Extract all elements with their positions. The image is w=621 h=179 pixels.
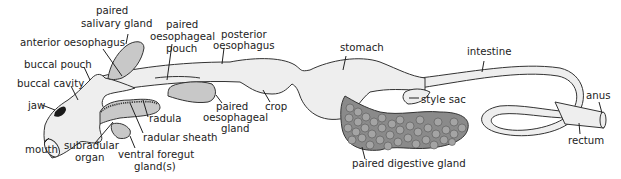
label-subradular-organ: subradular xyxy=(64,140,120,151)
label-paired-oesophageal-gland: paired xyxy=(216,101,248,112)
label-mouth: mouth xyxy=(25,144,58,155)
label-paired-salivary-gland: salivary gland xyxy=(81,18,152,29)
label-paired-oesophageal-pouch: paired xyxy=(166,19,198,30)
label-paired-oesophageal-pouch: oesophageal xyxy=(150,31,215,42)
label-anus: anus xyxy=(586,90,610,101)
paired-oesophageal-gland xyxy=(168,82,215,103)
label-posterior-oesophagus: oesophagus xyxy=(213,40,274,51)
label-crop: crop xyxy=(265,101,287,112)
label-buccal-pouch: buccal pouch xyxy=(24,59,92,70)
label-rectum: rectum xyxy=(568,135,604,146)
label-subradular-organ: organ xyxy=(75,152,104,163)
label-paired-oesophageal-gland: oesophageal xyxy=(203,112,268,123)
label-paired-digestive-gland: paired digestive gland xyxy=(352,158,466,169)
label-paired-oesophageal-gland: gland xyxy=(221,123,249,134)
label-ventral-foregut-gland: gland(s) xyxy=(134,161,176,172)
anus xyxy=(600,112,606,128)
label-jaw: jaw xyxy=(27,100,45,111)
label-paired-salivary-gland: paired xyxy=(96,5,128,16)
label-intestine: intestine xyxy=(467,46,511,57)
label-ventral-foregut-gland: ventral foregut xyxy=(118,149,194,160)
ventral-foregut-gland xyxy=(111,123,130,138)
label-stomach: stomach xyxy=(340,42,384,53)
label-style-sac: style sac xyxy=(421,94,466,105)
label-radula: radula xyxy=(149,113,181,124)
digestive-system-diagram: paired salivary gland anterior oesophagu… xyxy=(0,0,621,179)
label-posterior-oesophagus: posterior xyxy=(221,29,268,40)
label-anterior-oesophagus: anterior oesophagus xyxy=(20,37,125,48)
label-radular-sheath: radular sheath xyxy=(143,132,218,143)
label-buccal-cavity: buccal cavity xyxy=(17,78,84,89)
label-paired-oesophageal-pouch: pouch xyxy=(166,43,197,54)
